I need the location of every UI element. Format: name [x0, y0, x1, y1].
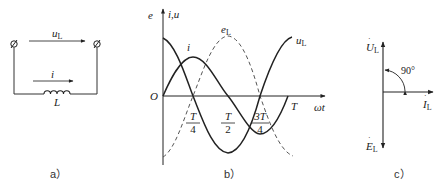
caption-b: b）: [224, 168, 241, 180]
wire: [14, 48, 44, 95]
svg-text:T: T: [225, 110, 232, 122]
phasor-UL-dot: ·: [368, 34, 371, 43]
phasor-EL-label: EL: [365, 140, 378, 154]
terminal-right-icon: [94, 40, 100, 48]
svg-text:T: T: [190, 110, 197, 122]
y-axis-label-iu: i,u: [168, 8, 180, 20]
angle-label: 90°: [401, 65, 415, 76]
wire: [70, 48, 97, 95]
panel-c-phasor: 90° UL · IL · EL · c）: [365, 34, 433, 180]
tick-T2: T 2: [221, 110, 235, 135]
inductor-label: L: [53, 96, 60, 108]
caption-c: c）: [394, 168, 411, 180]
svg-text:2: 2: [225, 123, 231, 135]
y-axis-label-e: e: [148, 9, 153, 21]
inductor-icon: [44, 91, 70, 94]
phasor-IL-label: IL: [422, 98, 432, 112]
phasor-UL-label: UL: [366, 41, 379, 55]
curve-label-eL: eL: [221, 23, 231, 37]
current-label: i: [51, 68, 54, 80]
voltage-label: uL: [52, 27, 63, 41]
curve-label-i: i: [187, 41, 190, 53]
phasor-IL-dot: ·: [424, 91, 427, 100]
curve-label-uL: uL: [296, 34, 307, 48]
svg-text:3T: 3T: [253, 110, 267, 122]
svg-text:4: 4: [257, 123, 263, 135]
terminal-left-icon: [11, 40, 17, 48]
figure: uL i L a） e i,u ωt O i uL eL T 4 T: [0, 0, 444, 192]
tick-T4: T 4: [186, 110, 200, 135]
tick-T: T: [291, 100, 298, 112]
svg-text:4: 4: [190, 123, 196, 135]
panel-b-waveforms: e i,u ωt O i uL eL T 4 T 2 3T 4 T b）: [148, 8, 326, 180]
x-axis-label: ωt: [314, 101, 326, 113]
panel-a-circuit: uL i L a）: [11, 27, 100, 180]
caption-a: a）: [50, 168, 67, 180]
phasor-EL-dot: ·: [368, 133, 371, 142]
origin-label: O: [150, 90, 158, 102]
